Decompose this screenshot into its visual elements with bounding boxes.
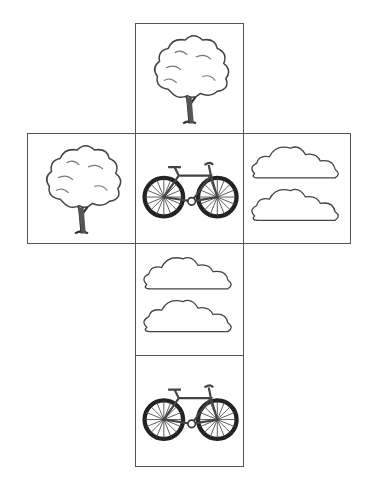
cube-face-top — [135, 23, 244, 134]
cube-face-right — [243, 133, 351, 244]
tree-icon — [28, 134, 135, 243]
clouds-icon — [244, 134, 350, 243]
cube-face-left — [27, 133, 136, 244]
cube-face-bottom — [135, 355, 244, 467]
tree-icon — [136, 24, 243, 133]
bicycle-icon — [136, 134, 243, 243]
cube-face-below-center — [135, 243, 244, 356]
bicycle-icon — [136, 356, 243, 466]
cube-face-center — [135, 133, 244, 244]
clouds-icon — [136, 244, 243, 355]
